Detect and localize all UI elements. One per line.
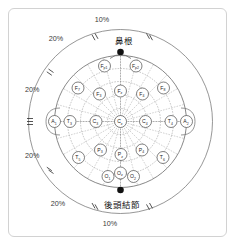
electrode-o1[interactable]: O1 bbox=[102, 171, 114, 183]
label-upper-left-20-percent: 20% bbox=[49, 34, 64, 43]
label-nasion: 鼻根 bbox=[115, 36, 133, 46]
electrode-c4[interactable]: C4 bbox=[140, 116, 152, 128]
label-bottom-left-20-percent: 20% bbox=[51, 199, 66, 208]
electrode-p3[interactable]: P3 bbox=[95, 144, 107, 156]
electrode-p4[interactable]: P4 bbox=[136, 144, 148, 156]
electrode-fp1[interactable]: Fp1 bbox=[99, 60, 111, 72]
electrode-f7[interactable]: F7 bbox=[72, 82, 84, 94]
label-bottom-10-percent: 10% bbox=[103, 219, 118, 228]
label-top-10-percent: 10% bbox=[95, 15, 110, 24]
electrode-t4[interactable]: T4 bbox=[165, 116, 177, 128]
electrode-pz[interactable]: Pz bbox=[115, 149, 127, 161]
electrode-f8[interactable]: F8 bbox=[158, 82, 170, 94]
nasion-marker-dot bbox=[117, 49, 124, 56]
electrode-fz[interactable]: Fz bbox=[115, 85, 127, 97]
electrode-fp2[interactable]: Fp2 bbox=[130, 60, 142, 72]
label-lower-left-20-percent: 20% bbox=[25, 151, 40, 160]
electrode-t3[interactable]: T3 bbox=[64, 116, 76, 128]
electrode-cz[interactable]: Cz bbox=[115, 116, 127, 128]
screenshot-root: Fp1Fp2F7F3FzF4F8A1T3C3CzC4T4A2P3PzP4T5T6… bbox=[0, 0, 235, 245]
label-mid-left-20-percent: 20% bbox=[25, 85, 40, 94]
label-inion: 後頭結節 bbox=[104, 200, 140, 210]
electrode-a1[interactable]: A1 bbox=[49, 116, 61, 128]
electrode-f4[interactable]: F4 bbox=[137, 88, 149, 100]
electrode-oz[interactable]: Oz bbox=[115, 167, 127, 179]
electrode-t5[interactable]: T5 bbox=[73, 152, 85, 164]
electrode-f3[interactable]: F3 bbox=[94, 88, 106, 100]
electrode-o2[interactable]: O2 bbox=[128, 171, 140, 183]
electrode-t6[interactable]: T6 bbox=[157, 152, 169, 164]
electrode-a2[interactable]: A2 bbox=[181, 116, 193, 128]
inion-marker-dot bbox=[117, 187, 124, 194]
eeg-diagram: Fp1Fp2F7F3FzF4F8A1T3C3CzC4T4A2P3PzP4T5T6… bbox=[0, 0, 235, 245]
electrode-c3[interactable]: C3 bbox=[90, 116, 102, 128]
